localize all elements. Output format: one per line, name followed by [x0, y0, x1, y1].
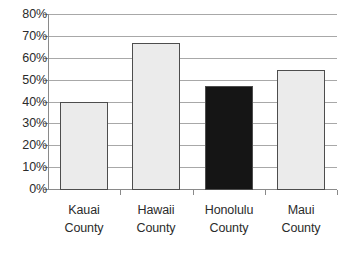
x-axis-tick [265, 190, 266, 195]
x-axis-label-line-2: County [193, 220, 265, 238]
bar-honolulu-county [205, 86, 253, 190]
x-axis-label-line-2: County [48, 220, 120, 238]
bar-chart: 80%70%60%50%40%30%20%10%0% KauaiCountyHa… [0, 0, 344, 253]
y-axis-tick-label: 70% [3, 30, 47, 43]
x-axis-category-label: HawaiiCounty [120, 202, 192, 238]
bar-hawaii-county [132, 43, 180, 190]
y-axis-tick-label: 10% [3, 161, 47, 174]
y-axis-tick-label: 0% [3, 183, 47, 196]
x-axis-tick [120, 190, 121, 195]
x-axis-label-line-1: Honolulu [205, 203, 254, 217]
y-axis-tick-label: 40% [3, 96, 47, 109]
x-axis-category-label: MauiCounty [265, 202, 337, 238]
x-axis-label-line-1: Hawaii [138, 203, 175, 217]
x-axis-category-label: HonoluluCounty [193, 202, 265, 238]
x-axis-category-label: KauaiCounty [48, 202, 120, 238]
y-axis-tick-label: 20% [3, 139, 47, 152]
plot-area [48, 14, 337, 190]
x-axis-tick [193, 190, 194, 195]
y-axis-tick-label: 50% [3, 74, 47, 87]
x-axis-tick [337, 190, 338, 195]
y-axis-tick-label: 60% [3, 52, 47, 65]
x-axis-label-line-1: Kauai [68, 203, 99, 217]
x-axis-label-line-1: Maui [288, 203, 315, 217]
bar-kauai-county [60, 102, 108, 190]
x-axis-label-line-2: County [120, 220, 192, 238]
y-axis-tick-label: 30% [3, 117, 47, 130]
x-axis-label-line-2: County [265, 220, 337, 238]
bar-maui-county [277, 70, 325, 190]
y-axis-tick-label: 80% [3, 8, 47, 21]
